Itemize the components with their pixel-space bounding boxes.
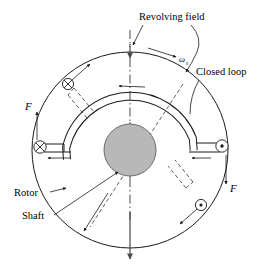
omega-direction-arrow: [148, 48, 176, 57]
shaft-hub: [104, 124, 156, 176]
pole-axis-arrow-lower: [84, 193, 108, 231]
force-arrow-upper-left-node: [72, 64, 90, 80]
shaft-label: Shaft: [22, 210, 44, 221]
upper-left-loop-dashed-b: [68, 95, 87, 118]
lower-right-loop-dashed-a: [168, 166, 186, 188]
force-label-right: F: [229, 182, 237, 194]
force-label-left: F: [24, 100, 32, 112]
closed-loop-leader: [190, 80, 199, 114]
current-out-of-page-lower-right: [195, 199, 206, 210]
diagram-svg: F F ω s Revolving field Closed loop Roto…: [0, 0, 262, 269]
current-out-of-page-right-bar: [216, 140, 228, 152]
closed-loop-label: Closed loop: [196, 66, 246, 77]
shaft-leader: [54, 172, 118, 215]
omega-subscript-label: s: [186, 60, 188, 66]
omega-label: ω: [179, 54, 185, 64]
figure-container: F F ω s Revolving field Closed loop Roto…: [0, 0, 262, 269]
lower-right-loop-dashed-b: [175, 160, 193, 182]
upper-left-loop-dashed-a: [74, 88, 94, 112]
loop-current-arrow-top: [119, 86, 145, 87]
revolving-field-leader-left: [133, 25, 143, 45]
current-into-page-upper-left: [62, 78, 73, 89]
rotor-label: Rotor: [14, 187, 38, 198]
rotor-leader: [50, 188, 66, 192]
revolving-field-label: Revolving field: [139, 11, 205, 22]
current-into-page-left-bar: [34, 141, 46, 153]
force-arrow-lower-right-node: [180, 209, 197, 224]
lower-right-loop-dashed-cap: [186, 182, 193, 188]
